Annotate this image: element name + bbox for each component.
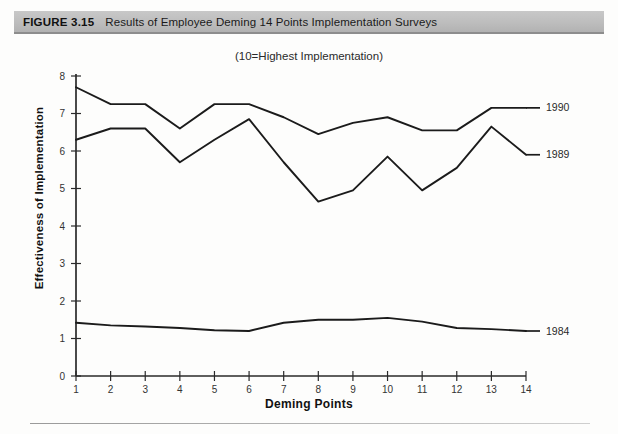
series-line-1990 (76, 87, 526, 134)
x-tick-label: 10 (382, 384, 394, 395)
x-tick-label: 12 (451, 384, 463, 395)
x-axis-ticks: 1234567891011121314 (73, 371, 532, 395)
y-tick-label: 2 (59, 296, 65, 307)
y-tick-label: 7 (59, 108, 65, 119)
y-tick-label: 6 (59, 146, 65, 157)
x-tick-label: 1 (73, 384, 79, 395)
series-label-1984: 1984 (546, 325, 570, 337)
data-series-group (76, 87, 526, 331)
y-tick-label: 5 (59, 183, 65, 194)
x-tick-label: 3 (142, 384, 148, 395)
line-chart-svg: 012345678 1234567891011121314 1990198919… (0, 0, 618, 434)
y-axis-ticks: 012345678 (59, 71, 81, 382)
y-tick-label: 8 (59, 71, 65, 82)
x-tick-label: 8 (316, 384, 322, 395)
x-tick-label: 14 (520, 384, 532, 395)
y-tick-label: 1 (59, 333, 65, 344)
figure-container: FIGURE 3.15 Results of Employee Deming 1… (0, 0, 618, 434)
x-tick-label: 2 (108, 384, 114, 395)
series-labels-group: 199019891984 (526, 101, 570, 336)
series-label-1989: 1989 (546, 148, 570, 160)
y-tick-label: 0 (59, 371, 65, 382)
y-tick-label: 3 (59, 258, 65, 269)
x-tick-label: 7 (281, 384, 287, 395)
series-line-1989 (76, 119, 526, 202)
series-line-1984 (76, 318, 526, 331)
x-tick-label: 5 (212, 384, 218, 395)
x-tick-label: 11 (417, 384, 428, 395)
x-tick-label: 6 (246, 384, 252, 395)
series-label-1990: 1990 (546, 101, 570, 113)
x-tick-label: 13 (486, 384, 498, 395)
x-tick-label: 9 (350, 384, 356, 395)
y-tick-label: 4 (59, 221, 65, 232)
chart-plot-area: 012345678 1234567891011121314 1990198919… (0, 0, 618, 434)
x-tick-label: 4 (177, 384, 183, 395)
footer-divider (30, 423, 590, 424)
